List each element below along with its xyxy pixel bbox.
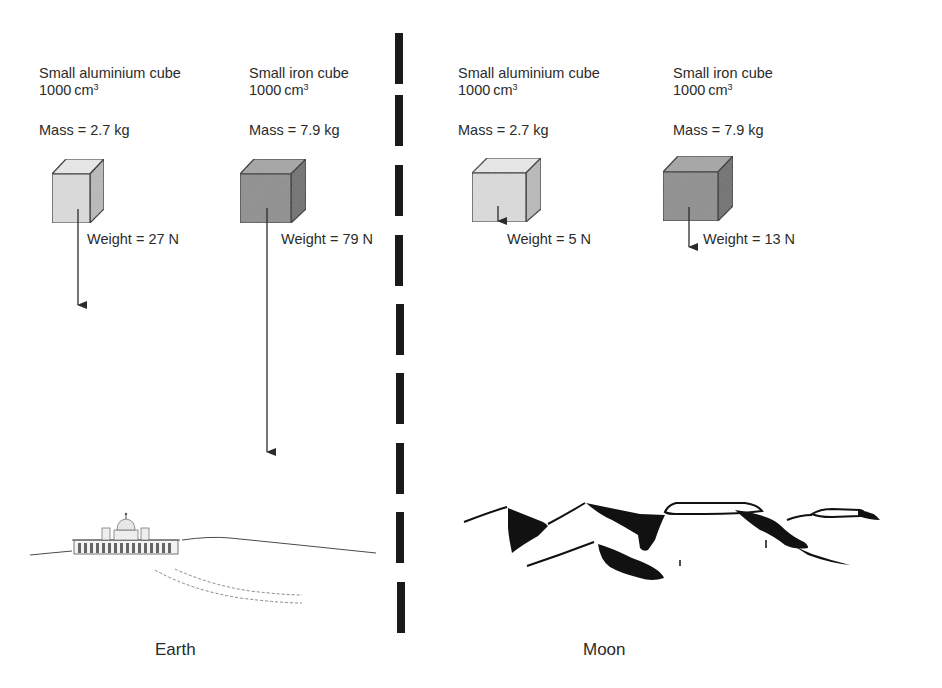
volume-exponent: 3: [513, 82, 518, 92]
diagram-canvas: [0, 0, 942, 688]
volume-unit: cm: [284, 82, 303, 98]
volume-exponent: 3: [304, 82, 309, 92]
volume-number: 1000: [249, 82, 281, 98]
volume-number: 1000: [673, 82, 705, 98]
moon-iron-cube: [663, 156, 733, 221]
moon-aluminium-cube-weight: Weight = 5 N: [507, 231, 591, 248]
volume-number: 1000: [458, 82, 490, 98]
volume-number: 1000: [39, 82, 71, 98]
moon-aluminium-cube-name: Small aluminium cube: [458, 65, 600, 82]
moon-aluminium-cube-mass: Mass = 2.7 kg: [458, 122, 549, 139]
moon-iron-cube-name: Small iron cube: [673, 65, 773, 82]
moon-iron-cube-mass: Mass = 7.9 kg: [673, 122, 764, 139]
earth-aluminium-cube-mass: Mass = 2.7 kg: [39, 122, 130, 139]
moon-iron-cube-volume: 1000 cm3: [673, 82, 733, 99]
volume-unit: cm: [74, 82, 93, 98]
volume-exponent: 3: [728, 82, 733, 92]
earth-aluminium-cube-weight: Weight = 27 N: [87, 231, 179, 248]
earth-iron-cube-volume: 1000 cm3: [249, 82, 309, 99]
building-icon: [72, 513, 180, 554]
earth-iron-cube: [240, 159, 306, 223]
moon-landscape-illustration: [464, 503, 880, 580]
earth-iron-cube-mass: Mass = 7.9 kg: [249, 122, 340, 139]
earth-label: Earth: [155, 640, 196, 660]
moon-iron-cube-weight: Weight = 13 N: [703, 231, 795, 248]
earth-aluminium-cube-volume: 1000 cm3: [39, 82, 99, 99]
earth-aluminium-cube-name: Small aluminium cube: [39, 65, 181, 82]
volume-unit: cm: [708, 82, 727, 98]
moon-aluminium-cube: [472, 158, 541, 222]
moon-label: Moon: [583, 640, 626, 660]
volume-unit: cm: [493, 82, 512, 98]
earth-iron-cube-name: Small iron cube: [249, 65, 349, 82]
volume-exponent: 3: [94, 82, 99, 92]
earth-iron-cube-weight: Weight = 79 N: [281, 231, 373, 248]
earth-moon-divider: [395, 33, 405, 633]
moon-aluminium-cube-volume: 1000 cm3: [458, 82, 518, 99]
